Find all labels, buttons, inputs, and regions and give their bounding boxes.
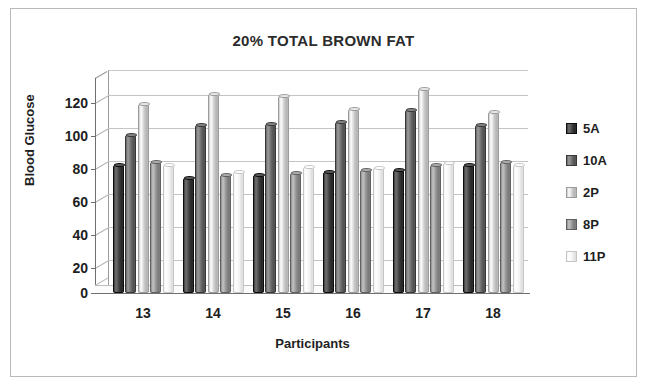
bar-5A-15[interactable] [253, 174, 264, 293]
bar-cap [361, 168, 372, 172]
legend-item-2P[interactable]: 2P [566, 176, 636, 208]
bar-cap [431, 163, 442, 167]
bar-11P-13[interactable] [163, 164, 174, 293]
y-tick-mark [91, 268, 96, 269]
x-tick-label-18: 18 [485, 305, 501, 321]
bar-11P-18[interactable] [513, 164, 524, 293]
bar-10A-14[interactable] [195, 124, 206, 293]
y-tick-mark [91, 202, 96, 203]
bar-cap [139, 102, 150, 106]
plot-area: 020406080100120 [95, 70, 530, 302]
x-tick-label-17: 17 [415, 305, 431, 321]
chart-figure: 20% TOTAL BROWN FAT Blood Glucose Partic… [0, 0, 647, 385]
gridline-riser [95, 161, 108, 169]
x-tick-label-15: 15 [275, 305, 291, 321]
bar-cap [196, 123, 207, 127]
y-tick-mark [91, 136, 96, 137]
bar-11P-14[interactable] [233, 171, 244, 293]
bar-cap [444, 161, 455, 165]
bar-5A-13[interactable] [113, 164, 124, 293]
bar-cap [489, 110, 500, 114]
bar-8P-16[interactable] [360, 169, 371, 293]
bar-cap [164, 163, 175, 167]
bar-8P-14[interactable] [220, 174, 231, 293]
legend-swatch-icon [566, 251, 577, 262]
y-axis-line [95, 78, 96, 294]
x-tick-label-13: 13 [135, 305, 151, 321]
bar-2P-16[interactable] [348, 108, 359, 293]
y-tick-label: 40 [72, 227, 88, 243]
bar-10A-17[interactable] [405, 109, 416, 293]
x-axis-title: Participants [95, 336, 530, 351]
gridline-riser [95, 95, 108, 103]
bar-11P-17[interactable] [443, 162, 454, 293]
bar-10A-18[interactable] [475, 124, 486, 293]
bar-10A-16[interactable] [335, 121, 346, 293]
bar-2P-17[interactable] [418, 88, 429, 293]
gridline-riser [95, 260, 108, 268]
y-tick-mark [91, 103, 96, 104]
bar-cap [406, 108, 417, 112]
gridline [108, 95, 528, 96]
y-tick-mark [91, 169, 96, 170]
x-tick-label-16: 16 [345, 305, 361, 321]
bar-cap [336, 120, 347, 124]
bar-5A-18[interactable] [463, 164, 474, 293]
bar-10A-15[interactable] [265, 123, 276, 293]
bar-cap [151, 160, 162, 164]
bar-8P-13[interactable] [150, 161, 161, 293]
bar-cap [501, 160, 512, 164]
legend-label: 5A [583, 121, 600, 136]
y-tick-label: 60 [72, 194, 88, 210]
legend-swatch-icon [566, 123, 577, 134]
y-tick-mark [91, 235, 96, 236]
bar-5A-16[interactable] [323, 171, 334, 293]
y-tick-label: 80 [72, 161, 88, 177]
bar-cap [114, 163, 125, 167]
bar-8P-18[interactable] [500, 161, 511, 293]
bar-5A-14[interactable] [183, 177, 194, 293]
bar-10A-13[interactable] [125, 134, 136, 293]
bar-cap [126, 133, 137, 137]
legend-item-10A[interactable]: 10A [566, 144, 636, 176]
legend-item-8P[interactable]: 8P [566, 208, 636, 240]
legend-label: 10A [583, 153, 607, 168]
bar-cap [234, 170, 245, 174]
bar-cap [394, 168, 405, 172]
chart-title: 20% TOTAL BROWN FAT [0, 32, 647, 49]
legend-item-5A[interactable]: 5A [566, 112, 636, 144]
legend-label: 11P [583, 249, 605, 264]
bar-cap [419, 87, 430, 91]
bar-2P-13[interactable] [138, 103, 149, 293]
gridline [108, 128, 528, 129]
y-tick-mark [91, 293, 96, 294]
bar-2P-15[interactable] [278, 95, 289, 293]
bar-11P-16[interactable] [373, 167, 384, 293]
gridline-riser [95, 128, 108, 136]
legend-swatch-icon [566, 187, 577, 198]
legend-label: 8P [583, 217, 599, 232]
bar-5A-17[interactable] [393, 169, 404, 293]
legend-swatch-icon [566, 155, 577, 166]
bar-cap [184, 176, 195, 180]
bar-2P-14[interactable] [208, 93, 219, 293]
legend-item-11P[interactable]: 11P [566, 240, 636, 272]
chart-legend: 5A10A2P8P11P [566, 112, 636, 272]
bar-11P-15[interactable] [303, 166, 314, 293]
gridline-riser [95, 227, 108, 235]
bar-cap [514, 163, 525, 167]
bar-8P-15[interactable] [290, 172, 301, 293]
bar-cap [254, 173, 265, 177]
y-tick-label: 100 [65, 128, 88, 144]
bar-8P-17[interactable] [430, 164, 441, 293]
bar-cap [279, 94, 290, 98]
bar-cap [304, 165, 315, 169]
legend-label: 2P [583, 185, 599, 200]
y-tick-label: 0 [80, 285, 88, 301]
bar-cap [291, 171, 302, 175]
gridline [108, 161, 528, 162]
y-tick-label: 20 [72, 260, 88, 276]
y-tick-label: 120 [65, 95, 88, 111]
bar-2P-18[interactable] [488, 111, 499, 293]
plot-wall-top-edge [95, 71, 108, 79]
